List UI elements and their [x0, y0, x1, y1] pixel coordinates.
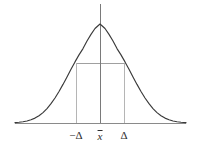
plot-canvas — [0, 0, 200, 150]
tick-label-delta: Δ — [120, 130, 127, 141]
tick-label-x-bar: x — [98, 130, 103, 142]
tick-label-minus-delta: −Δ — [69, 130, 82, 141]
tick-label-x-bar-text: x — [98, 130, 103, 142]
x-bar-overbar-group: x — [98, 130, 103, 142]
normal-distribution-figure: −Δ x Δ — [0, 0, 200, 150]
overbar-icon — [98, 130, 103, 131]
